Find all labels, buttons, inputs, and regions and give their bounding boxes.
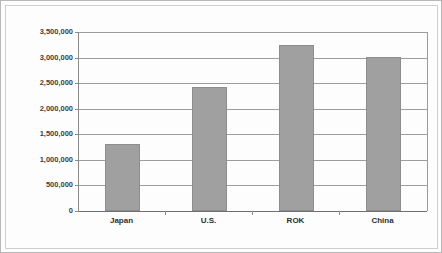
- bar: [192, 87, 227, 211]
- plot-area: [78, 32, 428, 211]
- bar: [279, 45, 314, 211]
- bar-chart-figure: Metric Tons 0500,0001,000,0001,500,0002,…: [0, 0, 442, 253]
- y-axis-tick-label: 1,000,000: [23, 156, 73, 164]
- x-axis-category-labels: JapanU.S.ROKChina: [78, 215, 426, 229]
- y-axis-tick-label: 1,500,000: [23, 130, 73, 138]
- y-axis-tick-labels: 0500,0001,000,0001,500,0002,000,0002,500…: [23, 32, 73, 211]
- bar: [366, 57, 401, 211]
- y-axis-tick-label: 2,000,000: [23, 105, 73, 113]
- bars-layer: [79, 32, 427, 211]
- y-axis-tick-label: 3,000,000: [23, 54, 73, 62]
- x-axis-baseline: [79, 211, 427, 212]
- y-axis-tick-label: 500,000: [23, 181, 73, 189]
- x-axis-category-label: ROK: [252, 215, 339, 227]
- x-axis-category-label: U.S.: [165, 215, 252, 227]
- y-axis-tick-label: 2,500,000: [23, 79, 73, 87]
- x-axis-category-label: China: [339, 215, 426, 227]
- x-axis-category-label: Japan: [78, 215, 165, 227]
- bar: [105, 144, 140, 211]
- y-axis-tick-label: 3,500,000: [23, 28, 73, 36]
- y-axis-tick-label: 0: [23, 207, 73, 215]
